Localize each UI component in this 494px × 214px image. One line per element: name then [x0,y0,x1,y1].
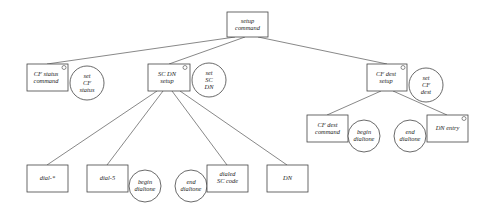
action-label: end [405,128,415,135]
node-label: SC DN [158,70,177,77]
action-label: set [83,72,90,79]
action-label: dialtone [354,135,375,142]
action-set-cf-status: set CF status [70,66,104,100]
action-label: begin [138,178,152,185]
action-label: dialtone [135,185,156,192]
state-marker-icon [401,66,405,70]
node-label: command [315,128,341,135]
node-label: setup [241,17,255,24]
action-set-cf-dest: set CF dest [409,68,443,102]
action-label: begin [357,128,371,135]
node-label: DN [282,174,293,181]
tree-diagram: setup command CF status command set CF s… [0,0,494,214]
node-cf-dest-command: CF dest command [307,115,348,142]
action-begin-dialtone-2: begin dialtone [129,170,161,202]
node-label: dialed [220,170,237,177]
action-set-sc-dn: set SC DN [192,63,226,97]
action-label: status [80,86,95,93]
action-label: end [186,178,196,185]
node-label: CF dest [376,70,396,77]
action-begin-dialtone-1: begin dialtone [348,120,380,152]
node-dial-star: dial-* [27,165,68,192]
edge-scdn-dialedsc [172,91,227,165]
edge-scdn-dn [180,91,287,165]
edge-scdn-dialstar [47,91,157,165]
node-label: setup [160,77,174,84]
node-dialed-sc-code: dialed SC code [207,165,248,192]
state-marker-icon [462,117,466,121]
action-label: CF [422,81,430,88]
node-setup-command: setup command [227,12,268,37]
edge-cfdest-cfdestcmd [327,91,381,115]
action-label: CF [83,79,91,86]
node-cf-dest-setup: CF dest setup [367,64,407,91]
node-label: dial-* [40,174,56,181]
node-label: CF status [34,70,59,77]
node-label: setup [379,77,393,84]
action-end-dialtone-1: end dialtone [394,120,426,152]
node-label: command [34,77,60,84]
action-label: dest [421,88,432,95]
action-label: DN [204,83,215,90]
node-label: CF dest [317,121,337,128]
state-marker-icon [62,66,66,70]
node-dn-entry: DN entry [427,115,468,142]
edge-setup-cfdest [258,37,387,64]
action-label: set [422,74,429,81]
action-end-dialtone-2: end dialtone [175,170,207,202]
state-marker-icon [183,66,187,70]
node-sc-dn-setup: SC DN setup [148,64,190,91]
node-label: dial-5 [100,174,115,181]
edges [47,37,447,165]
node-dial-5: dial-5 [87,165,128,192]
node-label: command [235,24,261,31]
edge-scdn-dial5 [107,91,163,165]
node-cf-status-command: CF status command [27,64,68,91]
node-dn: DN [267,165,308,192]
action-label: dialtone [400,135,421,142]
action-label: dialtone [181,185,202,192]
action-label: set [205,69,212,76]
node-label: SC code [217,177,238,184]
node-label: DN entry [435,124,460,131]
action-label: SC [205,76,213,83]
